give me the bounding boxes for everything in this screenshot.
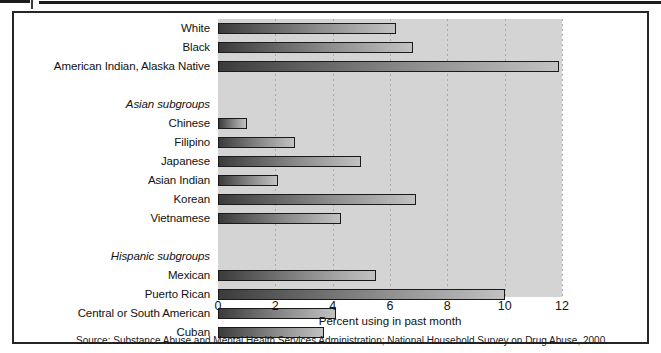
chart-row <box>14 228 647 247</box>
bar <box>218 194 416 205</box>
category-label: Korean <box>14 190 210 209</box>
category-label: Black <box>14 38 210 57</box>
chart-row: Mexican <box>14 266 647 285</box>
bar <box>218 175 278 186</box>
bar-chart: WhiteBlackAmerican Indian, Alaska Native… <box>14 13 647 342</box>
chart-rows: WhiteBlackAmerican Indian, Alaska Native… <box>14 19 647 297</box>
source-note: Source: Substance Abuse and Mental Healt… <box>62 335 622 346</box>
category-label: Japanese <box>14 152 210 171</box>
bar <box>218 156 361 167</box>
category-label: White <box>14 19 210 38</box>
chart-row: Korean <box>14 190 647 209</box>
chart-row: Japanese <box>14 152 647 171</box>
chart-row: American Indian, Alaska Native <box>14 57 647 76</box>
x-tick-label: 2 <box>260 299 290 313</box>
x-axis-title: Percent using in past month <box>218 315 562 327</box>
bar <box>218 42 413 53</box>
x-tick-label: 8 <box>432 299 462 313</box>
group-header-label: Hispanic subgroups <box>14 247 210 266</box>
bar <box>218 270 376 281</box>
x-tick-label: 6 <box>375 299 405 313</box>
group-header-label: Asian subgroups <box>14 95 210 114</box>
chart-row: Chinese <box>14 114 647 133</box>
bar <box>218 137 295 148</box>
figure-frame: WhiteBlackAmerican Indian, Alaska Native… <box>12 11 649 344</box>
page-top-rule <box>0 0 661 9</box>
x-tick-label: 4 <box>318 299 348 313</box>
category-label: Filipino <box>14 133 210 152</box>
x-tick-label: 12 <box>547 299 577 313</box>
bar <box>218 118 247 129</box>
x-tick-label: 10 <box>490 299 520 313</box>
bar <box>218 61 559 72</box>
top-rule-tick-mark <box>31 0 33 9</box>
chart-row: Hispanic subgroups <box>14 247 647 266</box>
category-label: American Indian, Alaska Native <box>14 57 210 76</box>
chart-row: White <box>14 19 647 38</box>
category-label: Asian Indian <box>14 171 210 190</box>
top-rule-segment-left <box>0 0 30 3</box>
chart-row: Filipino <box>14 133 647 152</box>
chart-row <box>14 76 647 95</box>
chart-row: Vietnamese <box>14 209 647 228</box>
bar <box>218 213 341 224</box>
x-tick-label: 0 <box>203 299 233 313</box>
chart-row: Asian subgroups <box>14 95 647 114</box>
bar <box>218 23 396 34</box>
category-label: Mexican <box>14 266 210 285</box>
chart-row: Black <box>14 38 647 57</box>
category-label: Chinese <box>14 114 210 133</box>
category-label: Vietnamese <box>14 209 210 228</box>
top-rule-segment-right <box>39 1 661 4</box>
chart-row: Asian Indian <box>14 171 647 190</box>
